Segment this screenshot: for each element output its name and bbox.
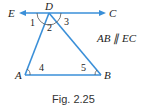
angle-label-5: 5 bbox=[81, 62, 86, 73]
point-label-a: A bbox=[14, 69, 22, 81]
point-label-c: C bbox=[109, 7, 117, 19]
angle-label-4: 4 bbox=[39, 62, 44, 73]
line-ec bbox=[19, 10, 106, 16]
triangle-dab bbox=[25, 13, 101, 75]
point-label-d: D bbox=[44, 0, 53, 12]
angle-label-2: 2 bbox=[47, 22, 52, 33]
angle-label-3: 3 bbox=[64, 16, 69, 27]
point-label-b: B bbox=[104, 69, 111, 81]
parallel-note: AB ∥ EC bbox=[96, 32, 137, 45]
point-label-e: E bbox=[7, 7, 15, 19]
geometry-figure: D E C A B 1 2 3 4 5 AB ∥ EC Fig. 2.25 bbox=[0, 0, 144, 111]
figure-caption: Fig. 2.25 bbox=[52, 93, 95, 105]
angle-label-1: 1 bbox=[30, 17, 35, 28]
